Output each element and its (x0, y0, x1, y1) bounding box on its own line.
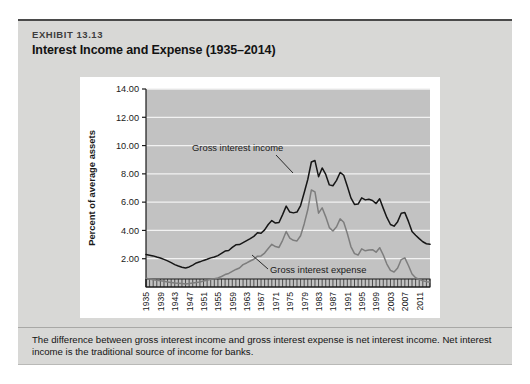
x-tick-label: 1947 (185, 292, 195, 311)
x-tick-label: 1987 (328, 292, 338, 311)
y-axis-title: Percent of average assets (86, 130, 97, 246)
y-tick-label: 2.00 (121, 254, 139, 264)
x-tick-label: 1959 (228, 292, 238, 311)
x-tick-label: 1951 (199, 292, 209, 311)
exhibit-title: Interest Income and Expense (1935–2014) (32, 42, 472, 58)
x-tick-label: 1995 (357, 292, 367, 311)
x-tick-label: 2003 (386, 292, 396, 311)
chart-card: 2.004.006.008.0010.0012.0014.00 19351939… (80, 77, 440, 318)
x-tick-label: 1999 (371, 292, 381, 311)
x-tick-label: 2011 (415, 292, 425, 311)
x-tick-label: 2007 (400, 292, 410, 311)
x-tick-label: 1963 (242, 292, 252, 311)
y-tick-label: 6.00 (121, 197, 139, 207)
series-annotation-label: Gross interest income (192, 142, 283, 153)
x-tick-label: 1955 (213, 292, 223, 311)
y-tick-label: 4.00 (121, 226, 139, 236)
x-tick-label: 1935 (141, 292, 151, 311)
x-tick-label: 1983 (314, 292, 324, 311)
exhibit-panel: EXHIBIT 13.13 Interest Income and Expens… (18, 19, 512, 365)
y-tick-label: 8.00 (121, 169, 139, 179)
y-axis-ticks: 2.004.006.008.0010.0012.0014.00 (116, 84, 146, 264)
series-annotation-label: Gross interest expense (270, 264, 366, 275)
exhibit-figure: EXHIBIT 13.13 Interest Income and Expens… (0, 0, 530, 384)
x-tick-label: 1971 (271, 292, 281, 311)
interest-income-expense-chart: 2.004.006.008.0010.0012.0014.00 19351939… (80, 77, 440, 318)
y-tick-label: 12.00 (116, 113, 139, 123)
x-tick-label: 1967 (256, 292, 266, 311)
x-axis-tick-labels: 1935193919431947195119551959196319671971… (141, 292, 424, 311)
x-tick-label: 1943 (170, 292, 180, 311)
x-tick-label: 1979 (300, 292, 310, 311)
x-tick-label: 1939 (156, 292, 166, 311)
caption-divider (18, 327, 512, 328)
x-tick-label: 1975 (285, 292, 295, 311)
plot-area-background (146, 89, 430, 287)
figure-caption: The difference between gross interest in… (32, 334, 498, 359)
y-tick-label: 10.00 (116, 141, 139, 151)
y-tick-label: 14.00 (116, 84, 139, 94)
x-tick-label: 1991 (343, 292, 353, 311)
exhibit-header: EXHIBIT 13.13 Interest Income and Expens… (32, 29, 472, 58)
exhibit-number-label: EXHIBIT 13.13 (32, 29, 472, 41)
